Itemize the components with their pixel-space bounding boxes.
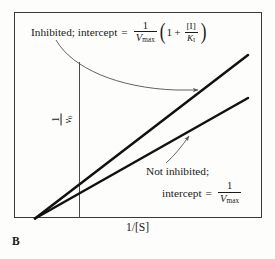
fraction-i-over-ki: [I] KI [185,21,198,43]
annotation-not-inhibited-equals: = [206,188,212,200]
annotation-not-inhibited-line1: Not inhibited; [146,165,209,177]
paren-open: ( [160,25,166,39]
fraction-denominator: Vmax [134,32,158,45]
y-axis-line [79,62,80,218]
fraction-numerator: 1 [134,20,158,33]
annotation-not-inhibited-line2: intercept= 1 Vmax [162,181,243,206]
annotation-inhibited: Inhibited; intercept= 1 Vmax (1+ [I] KI … [31,20,207,45]
fraction-denominator-ki: KI [185,33,198,44]
y-axis-numerator: 1 [49,113,62,125]
annotation-not-inhibited: Not inhibited; intercept= 1 Vmax [146,166,243,206]
fraction-one-over-vmax: 1 Vmax [134,20,158,45]
fraction-numerator-inhibitor: [I] [185,21,198,32]
annotation-inhibited-equals: = [121,27,127,39]
x-axis-label: 1/[S] [0,222,275,234]
fraction-numerator-2: 1 [218,180,242,193]
fraction-one-over-v0: 1 v0 [49,113,74,125]
annotation-inhibited-text: Inhibited; intercept [31,27,117,39]
y-axis-denominator: v0 [62,113,74,125]
term-one: 1 [167,27,173,39]
y-axis-label: 1 v0 [50,103,75,135]
fraction-one-over-vmax-2: 1 Vmax [218,180,242,205]
plus-sign: + [174,27,180,39]
figure-panel-b: Inhibited; intercept= 1 Vmax (1+ [I] KI … [0,0,275,259]
panel-letter: B [12,235,20,247]
paren-close: ) [201,25,207,39]
fraction-denominator-2: Vmax [218,193,242,206]
annotation-not-inhibited-intercept: intercept [162,188,202,200]
